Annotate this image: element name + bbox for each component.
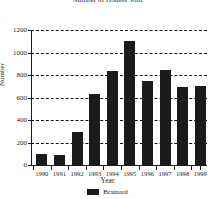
bar: [36, 154, 47, 165]
bar: [195, 86, 206, 165]
chart-page: Number of Houses Sold 020040060080010001…: [0, 0, 215, 199]
y-axis-tick-label: 800: [17, 72, 28, 79]
x-axis-tick: [191, 166, 192, 170]
bar: [142, 81, 153, 165]
bar: [72, 132, 83, 165]
y-axis-tick-label: 1200: [13, 27, 27, 34]
bar: [54, 155, 65, 165]
bar: [124, 41, 135, 165]
y-axis-title: Number: [0, 63, 6, 86]
x-axis-tick: [33, 166, 34, 170]
x-axis-title: Year: [0, 176, 215, 185]
x-axis-tick: [86, 166, 87, 170]
x-axis-tick: [139, 166, 140, 170]
y-axis-tick: [28, 53, 32, 54]
y-axis-tick-label: 0: [24, 162, 28, 169]
plot-area: 020040060080010001200 199019911992199319…: [31, 30, 207, 166]
x-axis-tick: [51, 166, 52, 170]
legend-swatch-brainard: [87, 189, 99, 195]
y-axis-tick-label: 1000: [13, 49, 27, 56]
gridline: [31, 75, 207, 76]
gridline: [31, 30, 207, 31]
y-axis-tick: [28, 120, 32, 121]
y-axis-tick-label: 200: [17, 139, 28, 146]
y-axis-tick: [28, 30, 32, 31]
legend-label-brainard: Brainard: [103, 188, 128, 196]
y-axis-tick: [28, 75, 32, 76]
x-axis-tick: [68, 166, 69, 170]
gridline: [31, 53, 207, 54]
bar: [177, 87, 188, 165]
bar: [160, 70, 171, 165]
x-axis-tick: [174, 166, 175, 170]
x-axis-tick: [200, 166, 201, 170]
y-axis-tick-label: 600: [17, 94, 28, 101]
x-axis-tick: [156, 166, 157, 170]
bar: [89, 94, 100, 165]
y-axis-tick: [28, 98, 32, 99]
x-axis-tick: [121, 166, 122, 170]
y-axis-tick: [28, 143, 32, 144]
x-axis-tick: [103, 166, 104, 170]
legend: Brainard: [0, 188, 215, 196]
bar: [107, 71, 118, 166]
y-axis-tick: [28, 165, 32, 166]
x-axis-line: [31, 165, 207, 166]
y-axis-tick-label: 400: [17, 117, 28, 124]
chart-title: Number of Houses Sold: [0, 0, 215, 4]
